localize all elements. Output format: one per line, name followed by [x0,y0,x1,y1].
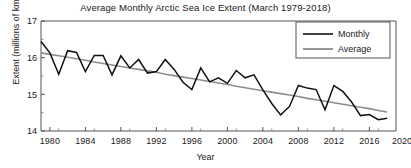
chart-figure: Average Monthly Arctic Sea Ice Extent (M… [0,0,411,168]
y-tick-labels: 14151617 [27,16,37,136]
x-tick-label: 1980 [40,136,60,146]
legend-label-monthly[interactable]: Monthly [338,29,370,39]
x-tick-label: 1988 [111,136,131,146]
chart-legend[interactable]: MonthlyAverage [296,22,390,58]
y-tick-label: 17 [27,16,37,26]
x-tick-labels: 1980198419881992199620002004200820122016… [40,136,411,146]
x-tick-label: 2020 [392,136,411,146]
x-tick-label: 1984 [75,136,95,146]
x-tick-label: 2008 [288,136,308,146]
x-tick-label: 2000 [217,136,237,146]
legend-label-average[interactable]: Average [338,44,371,54]
x-tick-label: 2004 [253,136,273,146]
plot-area: 14151617 1980198419881992199620002004200… [0,0,411,168]
x-tick-label: 1996 [182,136,202,146]
x-tick-label: 2012 [324,136,344,146]
x-tick-label: 1992 [146,136,166,146]
y-tick-label: 15 [27,90,37,100]
series-line-average [41,53,387,112]
y-tick-label: 16 [27,53,37,63]
y-tick-label: 14 [27,126,37,136]
x-tick-label: 2016 [359,136,379,146]
